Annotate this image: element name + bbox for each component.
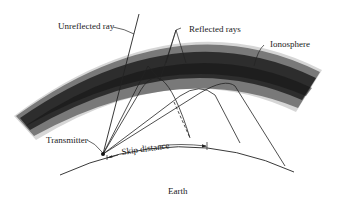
diagram-graphic (0, 0, 352, 200)
earth-label: Earth (168, 187, 188, 196)
transmitter-leader (87, 140, 102, 152)
earth-surface (60, 147, 294, 175)
ionosphere-label: Ionosphere (270, 40, 310, 49)
transmitter-point (101, 152, 105, 156)
transmitter-label: Transmitter (46, 136, 88, 145)
reflected-rays-label: Reflected rays (189, 25, 241, 34)
skip-boundary-dashed-line (174, 102, 190, 138)
ionosphere-diagram: Unreflected ray Reflected rays Ionospher… (0, 0, 352, 200)
unreflected-ray-label: Unreflected ray (58, 22, 114, 31)
unreflected-ray-leader (113, 27, 134, 34)
